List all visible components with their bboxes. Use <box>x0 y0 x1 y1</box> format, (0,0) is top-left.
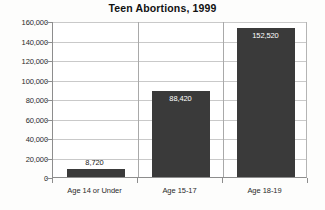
x-axis-tick-mark <box>52 178 53 183</box>
bar-value-label: 152,520 <box>237 31 295 40</box>
y-axis-tick-label: 40,000 <box>0 135 48 144</box>
bar-value-label: 8,720 <box>66 158 124 167</box>
category-separator <box>138 22 139 177</box>
y-axis-tick-label: 60,000 <box>0 116 48 125</box>
bar-value-label: 88,420 <box>152 94 210 103</box>
gridline <box>53 22 306 23</box>
x-axis-category-label: Age 14 or Under <box>52 186 137 195</box>
x-axis-tick-mark <box>137 178 138 183</box>
x-axis-tick-mark <box>307 178 308 183</box>
bar: 152,520 <box>237 28 295 177</box>
y-axis-tick-label: 20,000 <box>0 155 48 164</box>
bar: 88,420 <box>152 91 210 177</box>
chart-title: Teen Abortions, 1999 <box>0 2 325 14</box>
y-axis-tick-label: 160,000 <box>0 18 48 27</box>
x-axis-category-label: Age 18-19 <box>222 186 307 195</box>
x-axis-category-label: Age 15-17 <box>137 186 222 195</box>
bar-chart: Teen Abortions, 1999 020,00040,00060,000… <box>0 0 325 210</box>
y-axis-tick-label: 120,000 <box>0 57 48 66</box>
x-axis-tick-mark <box>222 178 223 183</box>
plot-area: 88,420152,520 <box>52 22 307 178</box>
y-axis-tick-label: 80,000 <box>0 96 48 105</box>
y-axis-tick-label: 0 <box>0 174 48 183</box>
bar <box>67 169 125 178</box>
y-axis-tick-label: 100,000 <box>0 77 48 86</box>
category-separator <box>223 22 224 177</box>
y-axis-tick-label: 140,000 <box>0 38 48 47</box>
